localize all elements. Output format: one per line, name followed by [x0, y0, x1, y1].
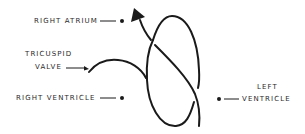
- outflow-arrow-shaft: [140, 20, 151, 40]
- arrowhead-icon: [131, 8, 145, 22]
- heart-loop-ellipse: [153, 16, 199, 88]
- label-tricuspid-valve-line1: TRICUSPID: [25, 50, 72, 58]
- heart-tube-diagonal: [155, 45, 199, 126]
- tricuspid-valve-curve: [89, 60, 146, 78]
- right-atrium-dot: [120, 19, 124, 23]
- left-ventricle-dot: [217, 97, 221, 101]
- label-right-ventricle: RIGHT VENTRICLE: [16, 94, 95, 102]
- heart-tube-looping-diagram: RIGHT ATRIUM TRICUSPID VALVE RIGHT VENTR…: [0, 0, 305, 134]
- label-right-atrium: RIGHT ATRIUM: [34, 17, 98, 25]
- heart-loop-ellipse-lower: [147, 40, 194, 126]
- label-tricuspid-valve-line2: VALVE: [35, 63, 62, 71]
- label-left-ventricle-line1: LEFT: [257, 83, 278, 91]
- tricuspid-arrowhead-icon: [84, 66, 89, 71]
- right-ventricle-dot: [120, 96, 124, 100]
- label-left-ventricle-line2: VENTRICLE: [242, 95, 291, 103]
